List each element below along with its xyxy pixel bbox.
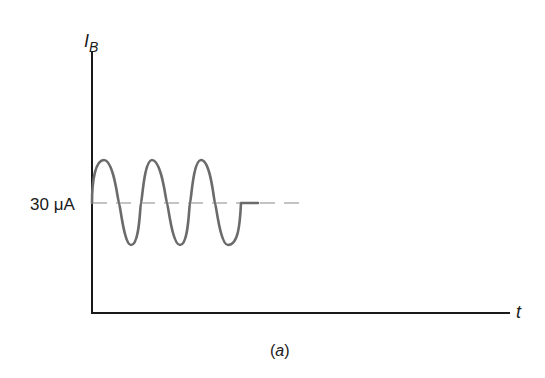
y-axis-label: IB <box>84 31 98 55</box>
y-axis-label-subscript: B <box>89 39 98 55</box>
x-axis-label: t <box>516 302 522 322</box>
figure-caption: (a) <box>270 342 290 359</box>
dc-level-label: 30 μA <box>30 195 75 214</box>
figure: IB t 30 μA (a) <box>0 0 545 378</box>
